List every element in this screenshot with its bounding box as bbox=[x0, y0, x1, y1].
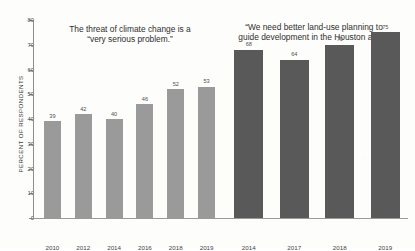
x-axis-tick-label: 2014 bbox=[242, 244, 256, 251]
y-axis-tick-label: 80 bbox=[8, 17, 34, 23]
plot-area: 3920104220124020144620165220185320196820… bbox=[34, 20, 408, 218]
bar-value-label: 75 bbox=[382, 24, 388, 30]
bar-rect bbox=[75, 114, 92, 218]
bar-rect bbox=[44, 121, 61, 218]
bar: 46 bbox=[136, 20, 153, 218]
x-axis-tick-label: 2017 bbox=[287, 244, 301, 251]
bar-value-label: 42 bbox=[80, 106, 86, 112]
bar: 64 bbox=[280, 20, 309, 218]
y-axis-tick-label: 40 bbox=[8, 116, 34, 122]
bar-rect bbox=[234, 50, 263, 218]
y-axis-title: PERCENT OF RESPONDENTS bbox=[14, 0, 28, 248]
bar-value-label: 52 bbox=[173, 81, 179, 87]
y-axis-tick-label: 10 bbox=[8, 190, 34, 196]
bar-value-label: 46 bbox=[142, 96, 148, 102]
x-axis-tick-label: 2018 bbox=[333, 244, 347, 251]
bar-rect bbox=[371, 32, 400, 218]
bar-value-label: 64 bbox=[291, 51, 297, 57]
bar-value-label: 70 bbox=[337, 36, 343, 42]
y-axis-tick-label: 30 bbox=[8, 140, 34, 146]
bar: 40 bbox=[106, 20, 123, 218]
x-axis-tick-label: 2019 bbox=[200, 244, 214, 251]
bar-value-label: 68 bbox=[246, 41, 252, 47]
x-axis-tick-label: 2010 bbox=[46, 244, 60, 251]
x-axis-tick-label: 2012 bbox=[76, 244, 90, 251]
y-axis-tick-label: 20 bbox=[8, 165, 34, 171]
bar: 53 bbox=[198, 20, 215, 218]
bar-value-label: 39 bbox=[49, 113, 55, 119]
y-axis-tick-label: 0 bbox=[8, 215, 34, 221]
bar-rect bbox=[280, 60, 309, 218]
bar-value-label: 40 bbox=[111, 111, 117, 117]
bar-rect bbox=[136, 104, 153, 218]
bar: 42 bbox=[75, 20, 92, 218]
bar: 70 bbox=[325, 20, 354, 218]
x-axis-tick-label: 2018 bbox=[169, 244, 183, 251]
x-axis-tick-label: 2016 bbox=[138, 244, 152, 251]
x-axis-tick-label: 2014 bbox=[107, 244, 121, 251]
bar: 52 bbox=[167, 20, 184, 218]
bar-rect bbox=[325, 45, 354, 218]
y-axis-tick-label: 60 bbox=[8, 66, 34, 72]
y-axis-tick-label: 50 bbox=[8, 91, 34, 97]
bar-value-label: 53 bbox=[203, 78, 209, 84]
bar-rect bbox=[106, 119, 123, 218]
y-axis-tick-label: 70 bbox=[8, 41, 34, 47]
bar-rect bbox=[167, 89, 184, 218]
bar: 68 bbox=[234, 20, 263, 218]
x-axis-line bbox=[33, 218, 408, 219]
bar: 75 bbox=[371, 20, 400, 218]
x-axis-tick-label: 2019 bbox=[378, 244, 392, 251]
bar: 39 bbox=[44, 20, 61, 218]
bar-rect bbox=[198, 87, 215, 218]
